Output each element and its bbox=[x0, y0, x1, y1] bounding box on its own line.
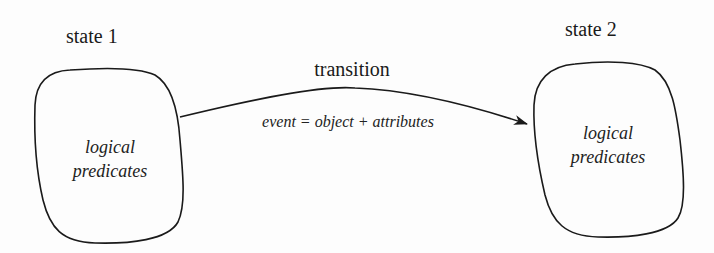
state-2-body-line2: predicates bbox=[569, 147, 645, 167]
state-1-body-line2: predicates bbox=[71, 161, 147, 181]
state-diagram-canvas: state 1 logical predicates state 2 logic… bbox=[0, 0, 714, 253]
diagram-svg: state 1 logical predicates state 2 logic… bbox=[0, 0, 714, 253]
state-1-title: state 1 bbox=[66, 25, 118, 47]
state-1-body-line1: logical bbox=[85, 137, 135, 157]
transition-event-label: event = object + attributes bbox=[262, 113, 434, 131]
state-2-body-line1: logical bbox=[583, 123, 633, 143]
state-2-title: state 2 bbox=[565, 18, 617, 40]
transition-label: transition bbox=[314, 58, 390, 80]
